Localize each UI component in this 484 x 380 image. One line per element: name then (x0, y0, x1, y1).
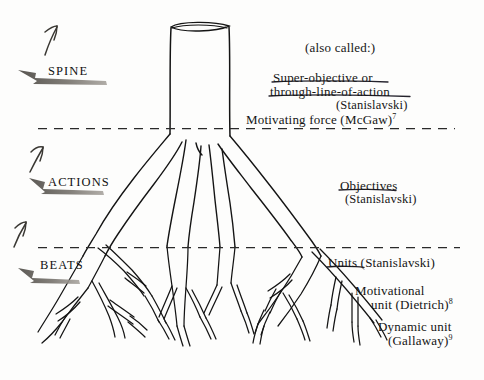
spine-term-attribution: (Stanislavski) (336, 98, 408, 113)
also-called-note: (also called:) (305, 40, 375, 56)
beats-term-line5: (Gallaway)9 (388, 333, 453, 349)
beats-term-line3-footnote: 8 (449, 297, 453, 306)
up-arrow-beats-icon (14, 222, 26, 247)
spine-alt-term: Motivating force (McGaw)7 (246, 112, 397, 128)
figure-canvas: (also called:) Super-objective or throug… (0, 0, 484, 380)
spine-alt-term-text: Motivating force (McGaw) (246, 112, 392, 127)
beats-term-line3-text: unit (Dietrich) (371, 297, 449, 312)
band-label-spine: SPINE (48, 64, 88, 79)
spine-alt-term-footnote: 7 (392, 112, 396, 121)
actions-term-attribution: (Stanislavski) (345, 192, 417, 207)
up-arrow-spine-icon (45, 26, 57, 55)
band-label-beats: BEATS (40, 258, 84, 273)
beats-term-line3: unit (Dietrich)8 (371, 297, 453, 313)
beats-term-line5-text: (Gallaway) (388, 333, 448, 348)
beats-term-line5-footnote: 9 (448, 333, 452, 342)
beats-term-line1: Units (Stanislavski) (328, 255, 435, 271)
root-limbs-primary (83, 134, 321, 257)
up-arrow-actions-icon (30, 147, 43, 172)
band-label-actions: ACTIONS (48, 175, 110, 190)
tree-trunk (170, 22, 230, 136)
